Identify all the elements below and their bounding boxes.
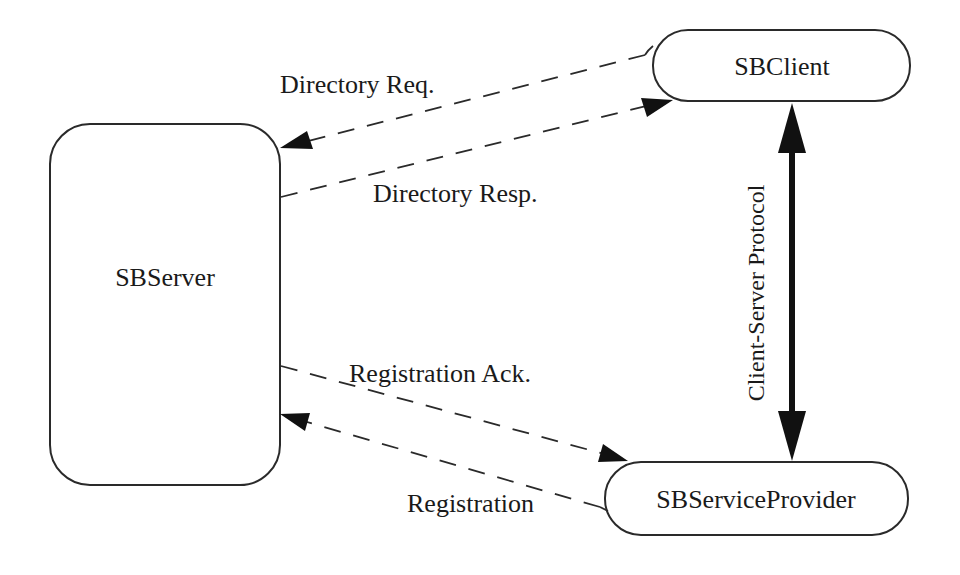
sbserviceprovider-label: SBServiceProvider	[656, 487, 855, 513]
client-server-protocol-arrow	[778, 103, 806, 461]
arrowhead-icon	[280, 131, 313, 149]
directory-request-label: Directory Req.	[280, 72, 435, 98]
directory-response-label: Directory Resp.	[373, 181, 538, 207]
arrowhead-icon	[598, 444, 628, 462]
sbserver-node	[50, 124, 280, 485]
registration-label: Registration	[407, 491, 534, 517]
registration-ack-label: Registration Ack.	[349, 361, 531, 387]
arrowhead-icon	[280, 413, 310, 431]
arrowhead-icon	[641, 98, 673, 117]
client-server-protocol-label: Client-Server Protocol	[744, 185, 768, 402]
arrowhead-down-icon	[778, 411, 806, 461]
arrowhead-up-icon	[778, 103, 806, 153]
sbserver-label: SBServer	[115, 265, 215, 291]
sbclient-label: SBClient	[734, 54, 829, 80]
